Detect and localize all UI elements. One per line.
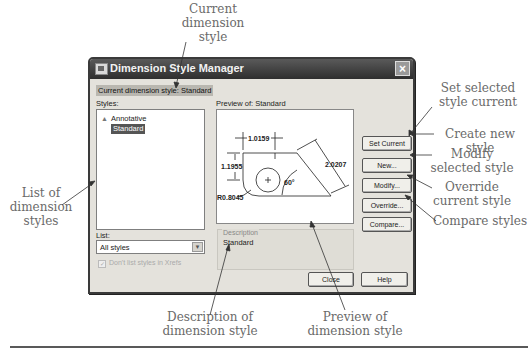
- callout-line: Set selected: [430, 81, 526, 95]
- help-button[interactable]: Help: [361, 272, 408, 287]
- callout-description: Description of dimension style: [160, 310, 260, 338]
- dim-angled-text: 2.0207: [325, 161, 347, 168]
- modify-button[interactable]: Modify...: [362, 178, 412, 193]
- angle-text: 60°: [284, 179, 295, 186]
- dimension-style-manager-dialog: Dimension Style Manager × Current dimens…: [88, 57, 415, 294]
- callout-line: current style: [424, 194, 520, 208]
- compare-button[interactable]: Compare...: [362, 217, 412, 232]
- preview-drawing: 1.0159 1.1955 2.0207 60° R0.8045: [217, 110, 353, 223]
- chevron-down-icon[interactable]: ▼: [192, 242, 203, 252]
- list-filter-value: All styles: [100, 243, 130, 252]
- current-style-label: Current dimension style: Standard: [96, 85, 213, 96]
- preview-label: Preview of: Standard: [216, 99, 286, 108]
- title-bar[interactable]: Dimension Style Manager ×: [90, 59, 413, 79]
- close-button[interactable]: Close: [308, 272, 354, 287]
- override-button[interactable]: Override...: [362, 198, 412, 213]
- callout-line: selected style: [424, 161, 520, 175]
- list-item[interactable]: ▲Annotative: [101, 114, 146, 124]
- app-icon: [95, 63, 108, 75]
- new-button[interactable]: New...: [362, 158, 412, 173]
- radius-text: R0.8045: [217, 194, 244, 201]
- callout-line: Current: [168, 2, 258, 16]
- callout-override: Override current style: [424, 180, 520, 208]
- styles-label: Styles:: [96, 99, 119, 108]
- callout-line: style: [168, 30, 258, 44]
- styles-list[interactable]: ▲Annotative Standard: [96, 109, 205, 230]
- description-value: Standard: [223, 238, 253, 247]
- annotative-icon: ▲: [101, 114, 111, 124]
- callout-modify: Modify selected style: [424, 147, 520, 175]
- callout-line: dimension style: [160, 324, 260, 338]
- description-group-label: Description: [222, 229, 259, 236]
- set-current-button[interactable]: Set Current: [362, 136, 412, 151]
- close-icon[interactable]: ×: [395, 61, 410, 76]
- callout-preview: Preview of dimension style: [305, 310, 405, 338]
- xref-checkbox[interactable]: ✓: [98, 260, 106, 268]
- callout-line: dimension: [168, 16, 258, 30]
- callout-line: Modify: [424, 147, 520, 161]
- callout-list-styles: List of dimension styles: [6, 186, 76, 228]
- callout-line: Override: [424, 180, 520, 194]
- callout-current-style: Current dimension style: [168, 2, 258, 44]
- callout-set-current: Set selected style current: [430, 81, 526, 109]
- list-filter-select[interactable]: All styles ▼: [96, 240, 205, 254]
- callout-line: dimension style: [305, 324, 405, 338]
- list-label: List:: [96, 231, 110, 240]
- callout-line: dimension: [6, 200, 76, 214]
- dialog-title: Dimension Style Manager: [110, 62, 244, 74]
- callout-line: List of: [6, 186, 76, 200]
- callout-line: styles: [6, 214, 76, 228]
- callout-line: Description of: [160, 310, 260, 324]
- callout-compare: Compare styles: [432, 214, 528, 228]
- style-preview: 1.0159 1.1955 2.0207 60° R0.8045: [216, 109, 354, 224]
- xref-checkbox-label: Don't list styles in Xrefs: [109, 259, 181, 266]
- list-item-selected[interactable]: Standard: [111, 124, 145, 134]
- callout-line: Preview of: [305, 310, 405, 324]
- dim-left-text: 1.1955: [221, 163, 243, 170]
- dim-top-text: 1.0159: [248, 135, 270, 142]
- callout-line: Compare styles: [432, 214, 528, 228]
- description-group: Description Standard: [217, 229, 354, 270]
- callout-line: style current: [430, 95, 526, 109]
- list-item-label: Annotative: [111, 114, 146, 123]
